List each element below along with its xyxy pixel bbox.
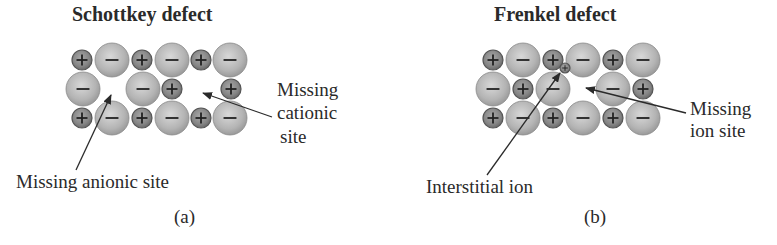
label-missing-cationic-line3: site xyxy=(280,127,306,147)
caption-b: (b) xyxy=(584,207,606,227)
anion-ion xyxy=(566,101,600,135)
anion-ion xyxy=(626,43,660,77)
schottkey-lattice xyxy=(66,43,247,135)
label-missing-ion-site-line1: Missing xyxy=(690,99,751,119)
anion-ion xyxy=(536,72,570,106)
cation-ion xyxy=(221,79,241,99)
cation-ion xyxy=(560,63,570,73)
frenkel-lattice xyxy=(476,43,660,135)
label-interstitial-ion: Interstitial ion xyxy=(426,177,533,197)
cation-ion xyxy=(603,50,623,70)
anion-ion xyxy=(95,43,129,77)
defect-diagram-canvas xyxy=(0,0,777,245)
anion-ion xyxy=(213,43,247,77)
cation-ion xyxy=(132,50,152,70)
frenkel-title: Frenkel defect xyxy=(494,4,616,24)
anion-ion xyxy=(155,43,189,77)
anion-ion xyxy=(596,72,630,106)
cation-ion xyxy=(483,50,503,70)
anion-ion xyxy=(126,72,160,106)
cation-ion xyxy=(633,79,653,99)
anion-ion xyxy=(506,43,540,77)
anion-ion xyxy=(66,72,100,106)
label-missing-cationic-line2: cationic xyxy=(277,103,337,123)
anion-ion xyxy=(476,72,510,106)
label-missing-anionic-site: Missing anionic site xyxy=(16,172,169,192)
cation-ion xyxy=(513,79,533,99)
cation-ion xyxy=(543,108,563,128)
anion-ion xyxy=(566,43,600,77)
cation-ion xyxy=(603,108,623,128)
cation-ion xyxy=(191,50,211,70)
label-missing-cationic-line1: Missing xyxy=(277,80,338,100)
cation-ion xyxy=(72,50,92,70)
anion-ion xyxy=(506,101,540,135)
schottkey-title: Schottkey defect xyxy=(72,4,213,24)
anion-ion xyxy=(155,101,189,135)
cation-ion xyxy=(132,108,152,128)
cation-ion xyxy=(72,108,92,128)
cation-ion xyxy=(191,108,211,128)
interstitial-ion xyxy=(560,63,570,73)
caption-a: (a) xyxy=(174,207,195,227)
anion-ion xyxy=(626,101,660,135)
cation-ion xyxy=(483,108,503,128)
cation-ion xyxy=(162,79,182,99)
label-missing-ion-site-line2: ion site xyxy=(690,121,745,141)
